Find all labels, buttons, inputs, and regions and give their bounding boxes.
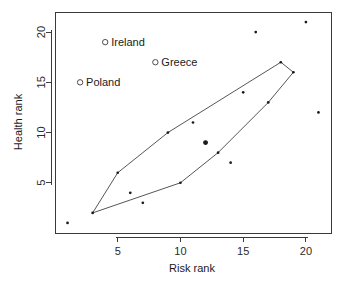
data-point <box>229 161 232 164</box>
annotation-label: Ireland <box>111 36 145 48</box>
chart-canvas: 5101520 5101520 IrelandGreecePoland Risk… <box>0 0 347 284</box>
x-tick-label: 20 <box>300 245 312 257</box>
data-point-emphasized <box>204 141 208 145</box>
data-point <box>66 222 69 225</box>
data-point <box>192 121 195 124</box>
y-axis-title: Health rank <box>12 93 24 150</box>
annotation-label: Poland <box>86 76 120 88</box>
data-point <box>217 151 220 154</box>
data-point <box>167 131 170 134</box>
y-tick-label: 10 <box>35 126 47 138</box>
data-point <box>129 191 132 194</box>
x-tick-label: 5 <box>115 245 121 257</box>
data-point <box>317 111 320 114</box>
x-tick-label: 15 <box>237 245 249 257</box>
data-point <box>179 181 182 184</box>
y-tick-label: 15 <box>35 76 47 88</box>
data-point <box>242 91 245 94</box>
x-axis-title: Risk rank <box>169 262 215 274</box>
data-point <box>254 31 257 34</box>
y-tick-label: 5 <box>35 180 47 186</box>
data-point <box>292 71 295 74</box>
data-point <box>305 21 308 24</box>
data-point <box>91 212 94 215</box>
data-point <box>141 202 144 205</box>
chart-background <box>0 0 347 284</box>
x-tick-label: 10 <box>174 245 186 257</box>
scatter-plot-figure: 5101520 5101520 IrelandGreecePoland Risk… <box>0 0 347 284</box>
data-point <box>116 171 119 174</box>
y-tick-label: 20 <box>35 26 47 38</box>
data-point <box>267 101 270 104</box>
annotation-label: Greece <box>161 56 197 68</box>
data-point <box>279 61 282 64</box>
